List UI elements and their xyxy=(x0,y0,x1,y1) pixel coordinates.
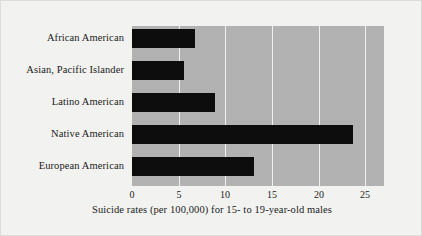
gridline-15 xyxy=(272,26,273,186)
bar-african-american xyxy=(132,29,195,48)
x-tick-20: 20 xyxy=(304,188,334,201)
category-label-asian-pacific-islander: Asian, Pacific Islander xyxy=(26,63,124,77)
bar-latino-american xyxy=(132,93,215,112)
category-axis: African American Asian, Pacific Islander… xyxy=(1,26,128,186)
x-axis-caption: Suicide rates (per 100,000) for 15- to 1… xyxy=(1,204,422,215)
category-label-european-american: European American xyxy=(39,159,124,173)
category-label-latino-american: Latino American xyxy=(52,95,124,109)
x-tick-0: 0 xyxy=(117,188,147,201)
gridline-25 xyxy=(365,26,366,186)
bar-chart-figure: African American Asian, Pacific Islander… xyxy=(0,0,422,236)
plot-area xyxy=(132,26,384,186)
x-tick-5: 5 xyxy=(164,188,194,201)
x-axis: 0 5 10 15 20 25 xyxy=(132,188,384,202)
gridline-20 xyxy=(319,26,320,186)
bar-european-american xyxy=(132,157,254,176)
x-tick-25: 25 xyxy=(350,188,380,201)
bar-native-american xyxy=(132,125,353,144)
bar-asian-pacific-islander xyxy=(132,61,184,80)
x-tick-15: 15 xyxy=(257,188,287,201)
category-label-native-american: Native American xyxy=(51,127,124,141)
x-tick-10: 10 xyxy=(210,188,240,201)
category-label-african-american: African American xyxy=(47,31,124,45)
